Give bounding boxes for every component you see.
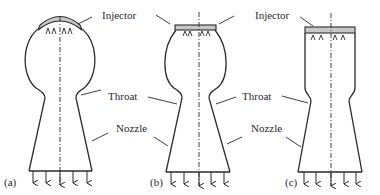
diagram-canvas (0, 0, 380, 195)
leader-throat-c (282, 96, 308, 103)
label-nozzle-b: Nozzle (251, 123, 282, 134)
injector-c-spray-icon (311, 35, 345, 40)
rocket-combustion-chamber-diagram: Injector Throat Nozzle Injector Throat N… (0, 0, 380, 195)
leader-nozzle-c (286, 137, 301, 147)
panel-tag-a: (a) (4, 177, 16, 188)
leader-injector-b-left (156, 15, 170, 24)
leader-nozzle-a (92, 133, 108, 141)
label-injector-b: Injector (255, 10, 289, 21)
label-injector-a: Injector (102, 10, 136, 21)
leader-throat-b-left (148, 97, 177, 104)
chamber-b (148, 12, 242, 186)
leader-injector-c (300, 17, 313, 26)
leader-injector-a (78, 17, 92, 24)
injector-b-plate (175, 25, 216, 30)
exhaust-arrows-c (304, 172, 356, 186)
label-throat-a: Throat (108, 91, 137, 102)
injector-a-spray-icon (46, 28, 72, 34)
leader-throat-b-right (216, 97, 236, 104)
injector-b-spray-icon (183, 31, 210, 36)
label-throat-b: Throat (242, 91, 271, 102)
leader-injector-b-right (219, 16, 234, 24)
exhaust-arrows-b (171, 172, 224, 186)
chamber-a (25, 17, 108, 186)
chamber-b-wall (165, 30, 230, 172)
panel-tag-c: (c) (285, 177, 297, 188)
label-nozzle-a: Nozzle (116, 123, 147, 134)
leader-throat-a (81, 90, 101, 95)
leader-nozzle-b-left (154, 137, 168, 146)
panel-tag-b: (b) (150, 177, 163, 188)
chamber-c (282, 13, 362, 186)
leader-nozzle-b-right (227, 137, 242, 144)
injector-c-plate (305, 27, 355, 33)
exhaust-arrows-a (33, 171, 87, 185)
